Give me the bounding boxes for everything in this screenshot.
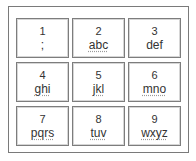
key-2[interactable]: 2 abc: [72, 18, 125, 58]
key-letters: ;: [41, 38, 44, 52]
key-letters: wxyz: [141, 126, 168, 140]
key-letters: tuv: [90, 126, 106, 140]
key-digit: 8: [95, 113, 101, 126]
key-letters: jkl: [93, 82, 104, 96]
key-digit: 5: [95, 69, 101, 82]
key-digit: 6: [151, 69, 157, 82]
key-7[interactable]: 7 pqrs: [16, 106, 69, 146]
key-8[interactable]: 8 tuv: [72, 106, 125, 146]
key-letters: ghi: [34, 82, 50, 96]
key-digit: 1: [39, 25, 45, 38]
key-6[interactable]: 6 mno: [128, 62, 181, 102]
key-letters: abc: [89, 38, 108, 52]
key-3[interactable]: 3 def: [128, 18, 181, 58]
key-digit: 7: [39, 113, 45, 126]
key-4[interactable]: 4 ghi: [16, 62, 69, 102]
key-digit: 2: [95, 25, 101, 38]
key-digit: 9: [151, 113, 157, 126]
key-5[interactable]: 5 jkl: [72, 62, 125, 102]
key-digit: 4: [39, 69, 45, 82]
key-letters: def: [146, 38, 163, 52]
key-letters: pqrs: [31, 126, 54, 140]
key-9[interactable]: 9 wxyz: [128, 106, 181, 146]
key-1[interactable]: 1 ;: [16, 18, 69, 58]
key-digit: 3: [151, 25, 157, 38]
keypad-grid: 1 ; 2 abc 3 def 4 ghi 5 jkl 6 mno 7 pqrs…: [16, 18, 181, 146]
key-letters: mno: [143, 82, 166, 96]
